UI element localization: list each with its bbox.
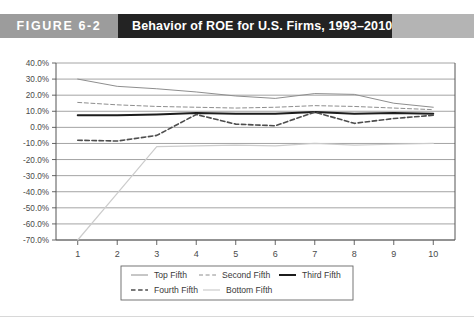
y-tick-label: -40.0% [23,188,49,197]
figure-number-label: FIGURE 6-2 [17,19,102,33]
chart-container: 40.0%30.0%20.0%10.0%0.0%-10.0%-20.0%-30.… [0,44,474,304]
roe-line-chart: 40.0%30.0%20.0%10.0%0.0%-10.0%-20.0%-30.… [0,44,474,304]
x-tick-label: 2 [115,249,120,259]
series-line-top-fifth [78,79,434,107]
y-tick-label: 10.0% [26,107,49,116]
figure-title: Behavior of ROE for U.S. Firms, 1993–201… [132,19,392,33]
x-tick-label: 5 [233,249,238,259]
figure-header-band: FIGURE 6-2 Behavior of ROE for U.S. Firm… [0,14,474,38]
legend-label-second-fifth: Second Fifth [222,270,270,280]
x-tick-label: 1 [75,249,80,259]
y-tick-label: -60.0% [23,220,49,229]
legend-label-top-fifth: Top Fifth [154,270,187,280]
y-tick-label: 0.0% [30,123,49,132]
y-tick-label: -50.0% [23,204,49,213]
chart-gridlines [56,63,455,240]
y-axis-tick-labels: 40.0%30.0%20.0%10.0%0.0%-10.0%-20.0%-30.… [23,59,56,245]
legend-label-bottom-fifth: Bottom Fifth [226,285,273,295]
y-tick-label: -20.0% [23,156,49,165]
x-tick-label: 4 [194,249,199,259]
y-tick-label: 30.0% [26,75,49,84]
x-tick-label: 10 [428,249,438,259]
figure-number-block: FIGURE 6-2 [0,14,118,38]
x-tick-label: 9 [391,249,396,259]
x-tick-label: 7 [312,249,317,259]
x-tick-label: 3 [154,249,159,259]
series-line-fourth-fifth [78,112,434,141]
y-tick-label: -10.0% [23,139,49,148]
y-tick-label: 40.0% [26,59,49,68]
figure-title-block: Behavior of ROE for U.S. Firms, 1993–201… [118,14,392,38]
y-tick-label: -70.0% [23,236,49,245]
plot-axes [56,63,455,240]
legend-label-third-fifth: Third Fifth [302,270,341,280]
figure-band-tail [392,14,474,38]
x-tick-label: 6 [273,249,278,259]
x-tick-label: 8 [352,249,357,259]
chart-legend: Top FifthSecond FifthThird FifthFourth F… [121,266,353,300]
series-line-second-fifth [78,102,434,109]
y-tick-label: 20.0% [26,91,49,100]
series-line-third-fifth [78,112,434,115]
x-axis-tick-labels: 12345678910 [75,240,438,259]
page-footer-rule [0,316,474,317]
y-tick-label: -30.0% [23,172,49,181]
legend-label-fourth-fifth: Fourth Fifth [154,285,198,295]
